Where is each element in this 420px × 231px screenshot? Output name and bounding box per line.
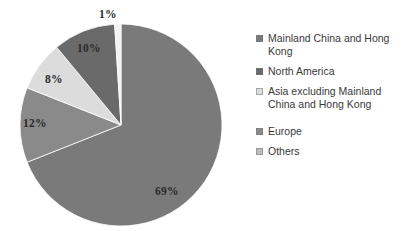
legend-item-others[interactable]: Others xyxy=(256,145,416,158)
slice-label-asia-excluding-china: 8% xyxy=(45,73,63,85)
legend-item-label: Mainland China and Hong Kong xyxy=(268,32,410,58)
legend-item-label: Others xyxy=(268,145,300,158)
legend-item-north-america[interactable]: North America xyxy=(256,65,416,78)
legend-swatch-icon xyxy=(256,68,263,75)
legend-item-asia-excluding-china[interactable]: Asia excluding Mainland China and Hong K… xyxy=(256,85,416,111)
legend-swatch-icon xyxy=(256,148,263,155)
legend-item-label: Europe xyxy=(268,125,302,138)
legend-item-label: Asia excluding Mainland China and Hong K… xyxy=(268,85,410,111)
legend-swatch-icon xyxy=(256,88,263,95)
pie-chart-figure: 1% 10% 8% 12% 69% Mainland China and Hon… xyxy=(0,0,420,231)
slice-label-north-america: 10% xyxy=(77,42,101,54)
legend-item-europe[interactable]: Europe xyxy=(256,125,416,138)
slice-label-mainland-china-hong-kong: 69% xyxy=(155,185,179,197)
chart-legend: Mainland China and Hong Kong North Ameri… xyxy=(256,32,416,172)
pie-slice-group xyxy=(20,24,222,226)
pie-svg xyxy=(0,0,250,231)
legend-swatch-icon xyxy=(256,35,263,42)
pie-plot-area: 1% 10% 8% 12% 69% xyxy=(0,0,250,231)
legend-item-mainland-china-hong-kong[interactable]: Mainland China and Hong Kong xyxy=(256,32,416,58)
legend-swatch-icon xyxy=(256,128,263,135)
slice-label-others: 1% xyxy=(99,8,117,20)
slice-label-europe: 12% xyxy=(23,117,47,129)
legend-item-label: North America xyxy=(268,65,335,78)
